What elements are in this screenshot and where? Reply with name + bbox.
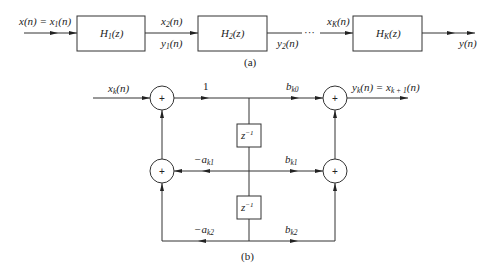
coef-b0-label: bk0: [286, 80, 299, 94]
caption-b: (b): [241, 250, 254, 263]
arrow-icon: [400, 96, 408, 100]
y2-label: y2(n): [276, 37, 299, 51]
arrow-icon: [291, 96, 299, 100]
arrow-icon: [315, 169, 323, 173]
coef-a1-label: −ak1: [194, 153, 214, 167]
xk-label: xK(n): [326, 15, 350, 29]
output-label: y(n): [458, 37, 477, 50]
plus-icon: +: [159, 166, 165, 177]
arrow-icon: [160, 183, 164, 191]
ellipsis: ···: [304, 26, 315, 38]
plus-icon: +: [332, 93, 338, 104]
arrow-icon: [290, 239, 298, 243]
arrow-icon: [50, 31, 58, 35]
arrow-icon: [190, 31, 198, 35]
plus-icon: +: [159, 93, 165, 104]
coef-b1-label: bk1: [285, 153, 298, 167]
caption-a: (a): [244, 56, 257, 69]
x2-label: x2(n): [160, 15, 183, 29]
arrow-icon: [290, 169, 298, 173]
biquad-section-diagram: xk(n) + 1 bk0 + yk(n) = xk + 1(n) z−1 z−…: [93, 80, 420, 263]
unity-gain-label: 1: [203, 80, 209, 92]
arrow-icon: [447, 31, 455, 35]
cascade-diagram: x(n) = x1(n) H1(z) x2(n) y1(n) H2(z) y2(…: [18, 15, 477, 69]
y1-label: y1(n): [160, 37, 183, 51]
arrow-icon: [198, 239, 206, 243]
arrow-icon: [174, 169, 182, 173]
arrow-icon: [69, 31, 77, 35]
coef-b2-label: bk2: [285, 223, 298, 237]
arrow-icon: [202, 169, 210, 173]
section-output-label: yk(n) = xk + 1(n): [351, 81, 420, 95]
arrow-icon: [315, 96, 323, 100]
arrow-icon: [345, 31, 353, 35]
arrow-icon: [160, 110, 164, 118]
arrow-icon: [142, 96, 150, 100]
block-h2-label: H2(z): [220, 27, 245, 41]
plus-icon: +: [332, 166, 338, 177]
arrow-icon: [333, 110, 337, 118]
input-label: x(n) = x1(n): [18, 15, 71, 29]
arrow-icon: [467, 31, 475, 35]
coef-a2-label: −ak2: [194, 223, 214, 237]
signal-flow-diagram: x(n) = x1(n) H1(z) x2(n) y1(n) H2(z) y2(…: [0, 0, 497, 268]
section-input-label: xk(n): [107, 82, 129, 96]
arrow-icon: [333, 183, 337, 191]
block-h1-label: H1(z): [99, 27, 124, 41]
arrow-icon: [201, 96, 209, 100]
